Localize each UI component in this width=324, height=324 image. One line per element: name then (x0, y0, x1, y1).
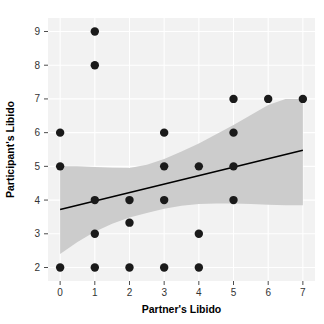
data-point (160, 128, 168, 136)
y-tick-label: 3 (34, 228, 40, 239)
x-tick-label: 1 (92, 287, 98, 298)
scatter-plot: 01234567 23456789 Partner's Libido Parti… (0, 0, 324, 324)
data-point (56, 128, 64, 136)
data-point (91, 196, 99, 204)
x-tick-label: 6 (265, 287, 271, 298)
x-tick-label: 4 (196, 287, 202, 298)
x-tick-label: 3 (161, 287, 167, 298)
y-tick-label: 9 (34, 26, 40, 37)
data-point (125, 218, 133, 226)
y-tick-label: 4 (34, 195, 40, 206)
data-point (160, 162, 168, 170)
data-point (195, 263, 203, 271)
x-tick-label: 5 (231, 287, 237, 298)
data-point (229, 196, 237, 204)
chart-container: 01234567 23456789 Partner's Libido Parti… (0, 0, 324, 324)
data-point (229, 162, 237, 170)
x-tick-label: 7 (300, 287, 306, 298)
data-point (160, 263, 168, 271)
data-point (56, 162, 64, 170)
data-point (299, 95, 307, 103)
data-point (264, 95, 272, 103)
x-tick-label: 2 (127, 287, 133, 298)
data-point (91, 27, 99, 35)
y-tick-label: 6 (34, 127, 40, 138)
y-axis-title: Participant's Libido (4, 101, 16, 198)
data-point (91, 61, 99, 69)
y-tick-label: 5 (34, 161, 40, 172)
data-point (91, 263, 99, 271)
data-point (125, 196, 133, 204)
data-point (91, 230, 99, 238)
data-point (229, 128, 237, 136)
y-tick-label: 2 (34, 262, 40, 273)
x-axis-title: Partner's Libido (142, 303, 222, 315)
data-point (229, 95, 237, 103)
y-tick-label: 8 (34, 60, 40, 71)
data-point (160, 196, 168, 204)
data-point (195, 162, 203, 170)
y-tick-label: 7 (34, 93, 40, 104)
data-point (125, 263, 133, 271)
data-point (56, 263, 64, 271)
x-tick-label: 0 (57, 287, 63, 298)
data-point (195, 230, 203, 238)
